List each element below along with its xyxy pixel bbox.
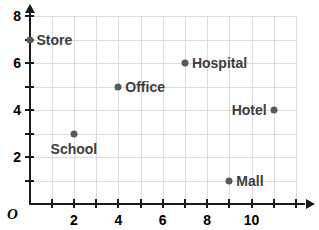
x-axis-tick [162, 199, 164, 208]
x-axis-tick [184, 199, 186, 208]
data-point-label: Hotel [232, 103, 267, 117]
y-axis-tick-label: 6 [5, 56, 21, 70]
data-point-label: Mall [236, 174, 263, 188]
x-axis-tick [295, 199, 297, 208]
scatter-plot-chart: 2468102468 StoreSchoolOfficeHospitalHote… [0, 0, 319, 230]
x-axis-arrow-icon [306, 199, 315, 209]
x-axis-tick-label: 8 [203, 213, 211, 227]
x-axis-tick [73, 199, 75, 208]
data-point [115, 83, 122, 90]
data-point [226, 177, 233, 184]
x-axis-line [29, 203, 306, 205]
y-axis-tick-label: 8 [5, 9, 21, 23]
grid-line-horizontal [30, 63, 296, 64]
y-axis-tick [25, 180, 34, 182]
data-point [26, 36, 33, 43]
x-axis-tick [228, 199, 230, 208]
x-axis-tick [95, 199, 97, 208]
origin-label: O [7, 207, 18, 222]
x-axis-tick [206, 199, 208, 208]
x-axis-tick [117, 199, 119, 208]
y-axis-tick-label: 4 [5, 103, 21, 117]
data-point-label: Store [37, 33, 73, 47]
x-axis-tick-label: 2 [70, 213, 78, 227]
y-axis-tick [25, 133, 34, 135]
y-axis-arrow-icon [25, 4, 35, 13]
y-axis-tick [25, 15, 34, 17]
data-point [181, 60, 188, 67]
x-axis-tick [51, 199, 53, 208]
y-axis-tick [25, 62, 34, 64]
plot-area: 2468102468 StoreSchoolOfficeHospitalHote… [0, 0, 319, 230]
data-point-label: Hospital [192, 56, 247, 70]
data-point [270, 107, 277, 114]
grid-line-horizontal [30, 16, 296, 17]
y-axis-tick [25, 86, 34, 88]
data-point-label: School [51, 142, 98, 156]
x-axis-tick [251, 199, 253, 208]
x-axis-tick-label: 10 [244, 213, 260, 227]
y-axis-tick [25, 156, 34, 158]
data-point [70, 130, 77, 137]
x-axis-tick-label: 6 [159, 213, 167, 227]
y-axis-tick-label: 2 [5, 150, 21, 164]
x-axis-tick [140, 199, 142, 208]
grid-line-vertical [296, 16, 297, 204]
y-axis-tick [25, 109, 34, 111]
x-axis-tick-label: 4 [114, 213, 122, 227]
grid-line-horizontal [30, 157, 296, 158]
data-point-label: Office [125, 80, 165, 94]
x-axis-tick [273, 199, 275, 208]
